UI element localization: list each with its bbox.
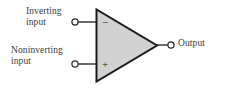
noninverting-input-label-line1: Noninverting [11,45,63,56]
inverting-input-label-line2: input [26,17,62,28]
noninverting-terminal-node [72,61,78,67]
output-label: Output [178,38,205,49]
opamp-diagram: − + Inverting input Noninverting input O… [0,0,241,111]
noninverting-sign: + [102,58,108,70]
inverting-terminal-node [72,19,78,25]
inverting-sign: − [102,16,108,28]
inverting-input-label: Inverting input [26,6,62,28]
inverting-input-label-line1: Inverting [26,6,62,17]
noninverting-input-label: Noninverting input [11,45,63,67]
output-terminal-node [168,42,174,48]
noninverting-input-label-line2: input [11,56,63,67]
